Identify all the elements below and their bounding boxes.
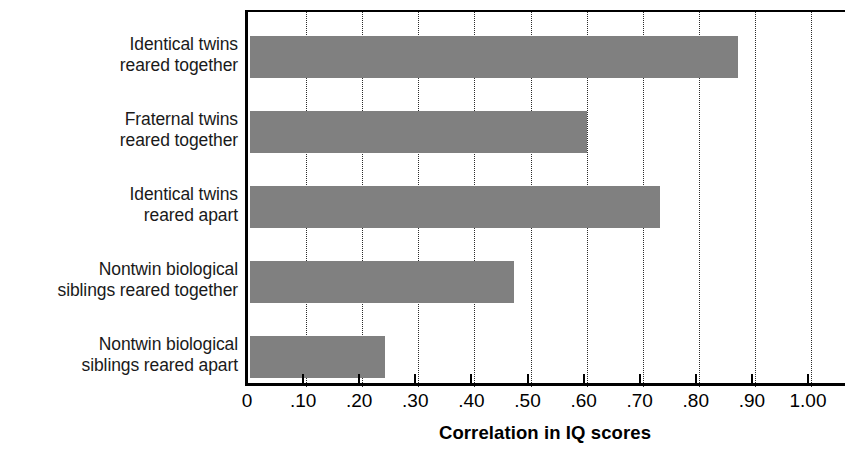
x-tick [358,374,360,385]
x-tick-label: .10 [290,389,316,413]
x-tick-label: 0 [242,389,253,413]
category-label: Identical twinsreared apart [0,184,238,226]
category-axis-labels: Identical twinsreared togetherFraternal … [0,10,238,385]
x-tick-label: 1.00 [790,389,827,413]
x-tick [583,374,585,385]
bar [250,186,660,228]
x-tick [414,374,416,385]
category-label-line: Nontwin biological [0,259,238,280]
bar [250,36,738,78]
x-tick-label: .90 [739,389,765,413]
x-tick [470,374,472,385]
category-label-line: Fraternal twins [0,109,238,130]
x-tick-label: .70 [626,389,652,413]
x-tick [807,374,809,385]
category-label: Nontwin biologicalsiblings reared togeth… [0,259,238,301]
x-axis-tick-labels: 0.10.20.30.40.50.60.70.80.901.00 [245,389,845,417]
gridline [811,12,812,387]
x-tick [527,374,529,385]
plot-area [245,10,845,385]
x-tick [302,374,304,385]
x-tick [695,374,697,385]
category-label: Identical twinsreared together [0,34,238,76]
x-tick-label: .40 [458,389,484,413]
bar [250,336,385,378]
category-label-line: Nontwin biological [0,334,238,355]
category-label: Fraternal twinsreared together [0,109,238,151]
category-label-line: siblings reared apart [0,355,238,376]
category-label-line: reared apart [0,205,238,226]
x-tick-label: .50 [514,389,540,413]
bar-chart: Identical twinsreared togetherFraternal … [0,0,847,467]
x-tick [751,374,753,385]
category-label-line: Identical twins [0,34,238,55]
x-tick-label: .60 [570,389,596,413]
bar [250,111,587,153]
category-label: Nontwin biologicalsiblings reared apart [0,334,238,376]
x-tick-label: .30 [402,389,428,413]
bar [250,261,514,303]
x-axis-ticks [245,374,845,386]
category-label-line: Identical twins [0,184,238,205]
x-tick [639,374,641,385]
category-label-line: reared together [0,55,238,76]
x-tick-label: .20 [346,389,372,413]
x-tick-label: .80 [683,389,709,413]
category-label-line: siblings reared together [0,280,238,301]
category-label-line: reared together [0,130,238,151]
gridline [755,12,756,387]
x-tick [246,374,248,385]
x-axis-title: Correlation in IQ scores [245,422,845,444]
